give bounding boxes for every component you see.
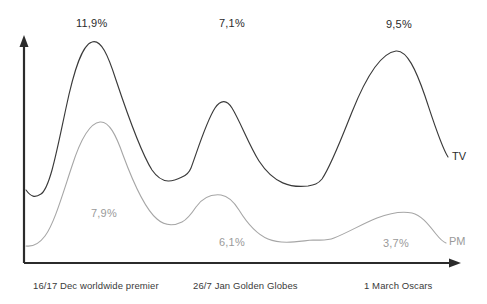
pm-peak-label-1: 7,9% — [91, 208, 117, 219]
pm-peak-label-3: 3,7% — [383, 238, 409, 249]
series-line-tv — [26, 42, 448, 197]
y-axis — [20, 35, 29, 263]
chart-plot-area — [0, 0, 487, 304]
x-axis-label-2: 26/7 Jan Golden Globes — [193, 281, 298, 291]
tv-peak-label-1: 11,9% — [76, 18, 107, 29]
pm-peak-label-2: 6,1% — [219, 237, 245, 248]
y-axis-arrowhead-icon — [20, 35, 29, 47]
tv-peak-label-2: 7,1% — [219, 18, 245, 29]
x-axis — [24, 259, 461, 268]
tv-peak-label-3: 9,5% — [386, 19, 412, 30]
chart-container: 11,9% 7,1% 9,5% 7,9% 6,1% 3,7% TV PM 16/… — [0, 0, 487, 304]
x-axis-label-3: 1 March Oscars — [364, 281, 432, 291]
series-label-tv: TV — [452, 151, 466, 162]
series-label-pm: PM — [449, 236, 466, 247]
x-axis-arrowhead-icon — [449, 259, 461, 268]
series-line-pm — [26, 122, 446, 246]
x-axis-label-1: 16/17 Dec worldwide premier — [33, 281, 159, 291]
